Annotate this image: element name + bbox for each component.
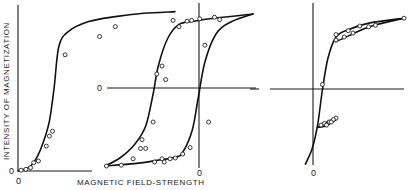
hysteresis-loop-data-point [139, 146, 143, 150]
minor-loops-data-point [402, 16, 406, 20]
initial-magnetization-curve-data-point [32, 161, 36, 165]
panel1-x-origin-label: 0 [16, 176, 21, 186]
minor-loops-data-point [367, 25, 371, 29]
initial-magnetization-curve-data-point [44, 144, 48, 148]
panel2-left-origin-label: 0 [97, 83, 102, 93]
initial-magnetization-curve-data-point [47, 134, 51, 138]
minor-loops-main-descending-line [305, 18, 404, 164]
initial-magnetization-curve-data-point [19, 168, 23, 172]
initial-magnetization-curve-data-point [29, 166, 33, 170]
initial-magnetization-curve-data-point [113, 25, 117, 29]
hysteresis-loop-descending-branch-line [105, 14, 253, 166]
minor-loops-data-point [342, 35, 346, 39]
hysteresis-loop-data-point [171, 18, 175, 22]
minor-loops-data-point [319, 123, 323, 127]
panel-hysteresis-loop: 0 0 [97, 3, 256, 178]
minor-loops-data-point [329, 120, 333, 124]
hysteresis-loop-data-point [105, 164, 109, 168]
minor-loops-data-point [373, 23, 377, 27]
minor-loops-data-point [320, 83, 324, 87]
hysteresis-loop-data-point [198, 17, 202, 21]
hysteresis-loop-data-point [162, 160, 166, 164]
hysteresis-loop-data-point [218, 18, 222, 22]
hysteresis-loop-data-point [119, 163, 123, 167]
hysteresis-loop-data-point [164, 78, 168, 82]
hysteresis-loop-data-point [185, 19, 189, 23]
hysteresis-loop-data-point [207, 120, 211, 124]
minor-loops-data-point [358, 24, 362, 28]
hysteresis-loop-data-point [140, 138, 144, 142]
initial-magnetization-curve-data-point [51, 129, 55, 133]
hysteresis-loop-data-point [151, 120, 155, 124]
hysteresis-loop-data-point [181, 152, 185, 156]
magnetization-figure: 0 0 0 0 0 MAGNETIC FIELD-STRENGTH INTENS… [0, 0, 408, 190]
hysteresis-loop-ascending-branch-line [105, 14, 253, 166]
hysteresis-loop-data-point [188, 146, 192, 150]
minor-loops-data-point [351, 31, 355, 35]
minor-loops-data-point [346, 29, 350, 33]
hysteresis-loop-data-point [190, 18, 194, 22]
x-axis-label: MAGNETIC FIELD-STRENGTH [77, 178, 205, 187]
panel-minor-loops: 0 [250, 3, 406, 178]
hysteresis-loop-data-point [173, 156, 177, 160]
hysteresis-loop-data-point [160, 64, 164, 68]
hysteresis-loop-data-point [144, 146, 148, 150]
initial-magnetization-curve-data-point [24, 167, 28, 171]
hysteresis-loop-data-point [177, 25, 181, 29]
hysteresis-loop-data-point [131, 157, 135, 161]
panel3-bottom-origin-label: 0 [311, 168, 316, 178]
hysteresis-loop-data-point [168, 157, 172, 161]
initial-magnetization-curve-data-point [63, 53, 67, 57]
minor-loops-data-point [334, 38, 338, 42]
initial-magnetization-curve-data-point [98, 35, 102, 39]
panel2-bottom-origin-label: 0 [197, 168, 202, 178]
hysteresis-loop-data-point [155, 72, 159, 76]
minor-loops-data-point [334, 33, 338, 37]
hysteresis-loop-data-point [213, 15, 217, 19]
hysteresis-loop-data-point [153, 160, 157, 164]
minor-loops-data-point [325, 123, 329, 127]
panel1-y-origin-label: 0 [9, 166, 14, 176]
initial-magnetization-curve-data-point [36, 159, 40, 163]
hysteresis-loop-data-point [203, 43, 207, 47]
panel-initial-curve: 0 0 [9, 5, 175, 186]
y-axis-label: INTENSITY OF MAGNETIZATION [2, 22, 11, 160]
